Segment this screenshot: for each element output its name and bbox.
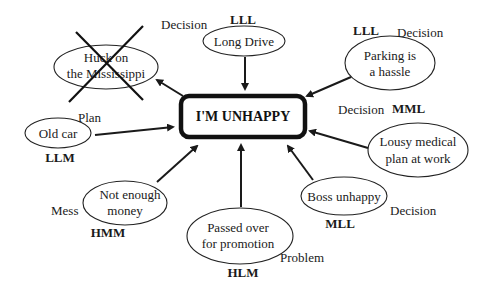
node-promotion: Passed over for promotion Problem HLM [187, 208, 324, 280]
node-line: Old car [39, 126, 78, 141]
node-parking: Parking is a hassle LLL Decision [345, 23, 444, 90]
category-label: Decision [390, 203, 437, 218]
code-label: MLL [325, 216, 355, 231]
arrow-money [157, 146, 197, 182]
node-line: Lousy medical [380, 134, 457, 149]
category-label: Mess [51, 203, 78, 218]
category-label: Decision [161, 17, 208, 32]
category-label: Plan [78, 110, 102, 125]
unhappy-cause-diagram: I'M UNHAPPY Huck on the Mississippi Deci… [0, 0, 477, 293]
node-line: Not enough [99, 187, 161, 202]
category-label: Problem [280, 250, 324, 265]
center-node: I'M UNHAPPY [181, 96, 305, 137]
center-label: I'M UNHAPPY [196, 109, 291, 124]
node-ellipse [368, 123, 468, 177]
code-label: HLM [227, 265, 258, 280]
node-line: Boss unhappy [307, 189, 381, 204]
node-huck: Huck on the Mississippi Decision [54, 17, 208, 102]
node-line: Parking is [364, 48, 416, 63]
code-label: LLL [230, 12, 256, 27]
node-line: for promotion [202, 236, 275, 251]
node-long-drive: Long Drive LLL [203, 12, 285, 56]
node-line: plan at work [386, 151, 451, 166]
code-label: LLM [45, 150, 75, 165]
category-label: Decision [397, 25, 444, 40]
code-label: MML [392, 101, 426, 116]
node-line: money [107, 203, 143, 218]
code-label: HMM [91, 225, 126, 240]
node-line: Long Drive [214, 34, 275, 49]
node-ellipse [345, 36, 435, 90]
category-label: Decision [338, 102, 385, 117]
arrow-old-car [95, 127, 173, 135]
node-money: Not enough money Mess HMM [51, 181, 167, 240]
node-boss: Boss unhappy Decision MLL [301, 177, 437, 231]
arrow-boss [288, 146, 313, 180]
node-medical: Lousy medical plan at work Decision MML [338, 101, 468, 177]
arrow-medical [310, 131, 368, 148]
arrow-parking [307, 77, 351, 96]
arrow-to-huck [157, 80, 183, 96]
node-line: the Mississippi [67, 66, 146, 81]
code-label: LLL [353, 23, 379, 38]
node-old-car: Old car Plan LLM [25, 110, 102, 165]
node-line: a hassle [370, 64, 411, 79]
node-line: Passed over [207, 220, 269, 235]
